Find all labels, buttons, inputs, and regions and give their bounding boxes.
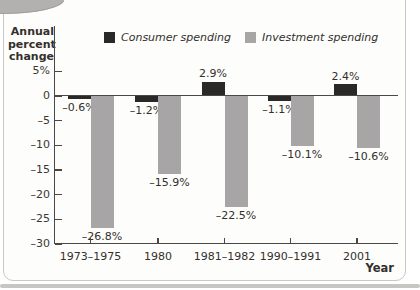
bar-investment-1980: [158, 96, 181, 174]
y-tick--10: [55, 145, 62, 147]
y-tick-label--20: –20: [8, 188, 50, 201]
bar-chart: –0.6%–26.8%1973–1975–1.2%–15.9%19802.9%–…: [0, 0, 420, 290]
bar-investment-1981–1982: [225, 96, 248, 207]
y-tick--15: [55, 169, 62, 171]
y-tick--20: [55, 194, 62, 196]
y-tick-label-5: 5%: [8, 64, 50, 77]
y-tick-5: [55, 71, 62, 73]
page-edge-strip: [0, 284, 420, 288]
bar-investment-1973–1975: [91, 96, 114, 228]
y-tick--5: [55, 120, 62, 122]
bar-consumer-1973–1975: [68, 96, 91, 99]
bar-value-label-investment-1973–1975: –26.8%: [76, 230, 128, 243]
bar-value-label-consumer-2001: 2.4%: [320, 70, 372, 83]
bar-consumer-1990–1991: [268, 96, 291, 101]
bar-value-label-investment-1980: –15.9%: [144, 176, 196, 189]
bar-consumer-1980: [135, 96, 158, 102]
y-tick--25: [55, 219, 62, 221]
y-tick-label--10: –10: [8, 138, 50, 151]
y-tick-label--5: –5: [8, 114, 50, 127]
bar-value-label-investment-1990–1991: –10.1%: [276, 148, 328, 161]
x-axis-line: [55, 243, 398, 245]
x-axis-title: Year: [330, 261, 394, 275]
bar-value-label-consumer-1981–1982: 2.9%: [187, 67, 239, 80]
category-label-1973–1975: 1973–1975: [55, 250, 127, 263]
y-tick-label-0: 0: [8, 89, 50, 102]
bar-investment-2001: [357, 96, 380, 148]
y-axis-line: [54, 26, 56, 244]
category-label-1990–1991: 1990–1991: [255, 250, 327, 263]
category-label-1981–1982: 1981–1982: [189, 250, 261, 263]
y-tick--30: [55, 243, 62, 245]
y-tick-label--30: –30: [8, 237, 50, 250]
y-tick-0: [55, 95, 62, 97]
category-label-1980: 1980: [122, 250, 194, 263]
bar-investment-1990–1991: [291, 96, 314, 146]
bar-value-label-investment-1981–1982: –22.5%: [210, 209, 262, 222]
y-tick-label--15: –15: [8, 163, 50, 176]
zero-line: [55, 95, 398, 97]
y-tick-label--25: –25: [8, 212, 50, 225]
bar-value-label-investment-2001: –10.6%: [343, 150, 395, 163]
